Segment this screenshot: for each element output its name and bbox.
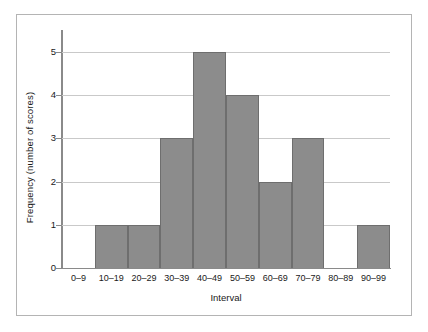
x-tick-label-10-19: 10–19 (95, 272, 128, 284)
y-tick-label-3: 3 (36, 133, 56, 143)
x-tick-label-80-89: 80–89 (324, 272, 357, 284)
y-tick-label-0: 0 (36, 263, 56, 273)
bar-30-39 (160, 138, 193, 268)
y-axis-tick-group: 012345 (30, 0, 56, 332)
bar-90-99 (357, 225, 390, 268)
x-tick-label-70-79: 70–79 (292, 272, 325, 284)
x-tick-label-30-39: 30–39 (160, 272, 193, 284)
x-tick-label-0-9: 0–9 (62, 272, 95, 284)
bar-10-19 (95, 225, 128, 268)
histogram-figure: Frequency (number of scores) 012345 0–91… (0, 0, 428, 332)
y-tick-label-5: 5 (36, 47, 56, 57)
x-axis-tick-group: 0–910–1920–2930–3940–4950–5960–6970–7980… (62, 272, 390, 286)
x-tick-label-90-99: 90–99 (357, 272, 390, 284)
bar-20-29 (128, 225, 161, 268)
bar-70-79 (292, 138, 325, 268)
bar-40-49 (193, 52, 226, 268)
data-box (62, 52, 390, 268)
x-tick-label-50-59: 50–59 (226, 272, 259, 284)
x-axis-title: Interval (62, 292, 390, 303)
x-tick-label-20-29: 20–29 (128, 272, 161, 284)
plot-area (62, 30, 390, 268)
y-tick-label-4: 4 (36, 90, 56, 100)
y-tick-label-1: 1 (36, 220, 56, 230)
x-tick-label-40-49: 40–49 (193, 272, 226, 284)
bar-60-69 (259, 182, 292, 268)
bar-50-59 (226, 95, 259, 268)
gridline-5 (62, 52, 390, 53)
x-tick-label-60-69: 60–69 (259, 272, 292, 284)
y-tick-label-2: 2 (36, 177, 56, 187)
